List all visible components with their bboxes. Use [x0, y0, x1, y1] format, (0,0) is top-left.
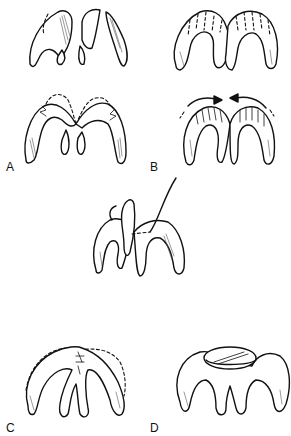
panel-c-drawing	[26, 347, 125, 417]
panel-d-drawing	[177, 347, 289, 415]
panel-label-c: C	[6, 421, 15, 435]
panel-b-top-drawing	[174, 11, 277, 70]
center-suture-drawing	[94, 178, 185, 276]
panel-label-b: B	[150, 160, 158, 174]
panel-a-bottom-drawing	[25, 94, 126, 163]
panel-label-a: A	[6, 160, 14, 174]
panel-label-d: D	[150, 421, 159, 435]
panel-b-bottom-drawing	[180, 94, 274, 165]
surgical-illustration: A B C	[0, 0, 291, 436]
panel-a-top-drawing	[30, 10, 127, 67]
